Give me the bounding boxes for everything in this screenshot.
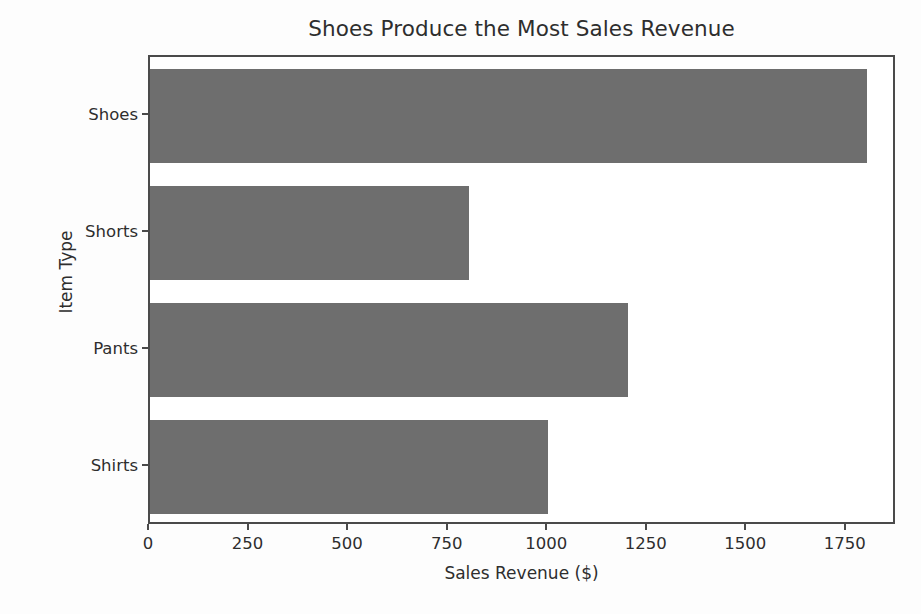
bar-chart-figure: Shoes Produce the Most Sales Revenue Ite… [0,0,921,614]
x-tick-mark [545,524,547,530]
x-tick-label-0: 0 [103,534,193,553]
bar-pants [150,303,628,397]
x-tick-label-1750: 1750 [800,534,890,553]
x-tick-label-1500: 1500 [700,534,790,553]
y-axis-label: Item Type [56,192,76,352]
chart-title: Shoes Produce the Most Sales Revenue [148,16,895,41]
plot-area [148,55,895,524]
x-tick-label-1000: 1000 [501,534,591,553]
x-tick-label-1250: 1250 [601,534,691,553]
y-tick-mark [142,464,148,466]
x-tick-mark [744,524,746,530]
y-tick-mark [142,113,148,115]
y-tick-label-pants: Pants [0,339,138,358]
x-tick-label-750: 750 [402,534,492,553]
x-tick-mark [645,524,647,530]
x-tick-label-500: 500 [302,534,392,553]
x-axis-label: Sales Revenue ($) [148,563,895,583]
x-tick-mark [147,524,149,530]
y-tick-label-shoes: Shoes [0,104,138,123]
bar-shoes [150,69,867,163]
x-tick-mark [844,524,846,530]
y-tick-label-shirts: Shirts [0,456,138,475]
x-tick-label-250: 250 [203,534,293,553]
y-tick-mark [142,230,148,232]
y-tick-mark [142,347,148,349]
x-tick-mark [446,524,448,530]
x-tick-mark [346,524,348,530]
x-tick-mark [247,524,249,530]
y-tick-label-shorts: Shorts [0,221,138,240]
bar-shorts [150,186,469,280]
bar-shirts [150,420,548,514]
